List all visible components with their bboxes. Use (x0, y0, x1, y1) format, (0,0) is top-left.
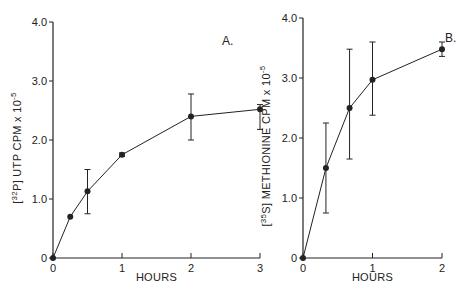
data-point (188, 113, 194, 119)
panel-label: A. (222, 34, 233, 48)
x-axis-label: HOURS (352, 271, 393, 283)
data-point (300, 255, 306, 261)
data-point (50, 255, 56, 261)
data-point (67, 214, 73, 220)
y-tick-label: 2.0 (32, 134, 47, 146)
y-tick-label: 2.0 (282, 132, 297, 144)
data-point (347, 105, 353, 111)
chart-panel-b: 01.02.03.04.0012HOURSB.[35S] METHIONINE … (258, 12, 456, 283)
chart-panel-a: 01.02.03.04.00123HOURSA.[32P] UTP CPM x … (9, 16, 263, 283)
data-point (439, 46, 445, 52)
y-tick-label: 0 (291, 252, 297, 264)
y-tick-label: 0 (41, 252, 47, 264)
x-tick-label: 0 (300, 262, 306, 274)
data-point (85, 188, 91, 194)
y-tick-label: 3.0 (32, 75, 47, 87)
x-tick-label: 2 (439, 262, 445, 274)
x-tick-label: 0 (50, 262, 56, 274)
x-tick-label: 3 (257, 262, 263, 274)
y-tick-label: 4.0 (32, 16, 47, 28)
data-point (370, 77, 376, 83)
data-point (323, 165, 329, 171)
y-axis-label: [32P] UTP CPM x 10-5 (9, 92, 23, 204)
y-tick-label: 1.0 (282, 192, 297, 204)
data-line (53, 109, 260, 258)
y-tick-label: 4.0 (282, 12, 297, 24)
x-axis-label: HOURS (136, 271, 177, 283)
figure: 01.02.03.04.00123HOURSA.[32P] UTP CPM x … (0, 0, 460, 299)
y-tick-label: 1.0 (32, 193, 47, 205)
y-tick-label: 3.0 (282, 72, 297, 84)
panel-label: B. (445, 31, 456, 45)
y-axis-label: [35S] METHIONINE CPM x 10-5 (258, 65, 272, 226)
x-tick-label: 1 (119, 262, 125, 274)
x-tick-label: 2 (188, 262, 194, 274)
data-point (119, 152, 125, 158)
